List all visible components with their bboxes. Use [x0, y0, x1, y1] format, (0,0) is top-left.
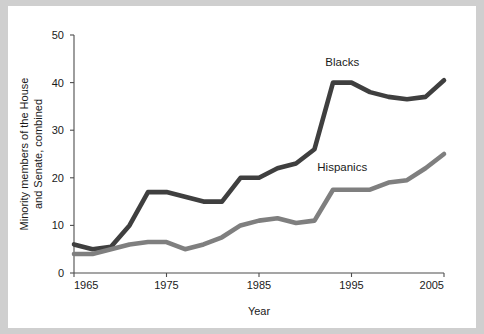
line-chart: 50 40 30 20 10 0 1965 1975 1985 1995 200… [8, 6, 476, 328]
y-tick-label-10: 10 [52, 219, 64, 231]
x-tick-label-1965: 1965 [74, 279, 98, 291]
y-tick-label-20: 20 [52, 172, 64, 184]
x-tick-label-1985: 1985 [247, 279, 271, 291]
y-tick-label-30: 30 [52, 124, 64, 136]
x-tick-label-1975: 1975 [154, 279, 178, 291]
y-axis-tick-labels: 50 40 30 20 10 0 [52, 29, 64, 279]
series-line-hispanics [74, 154, 444, 254]
y-tick-label-40: 40 [52, 77, 64, 89]
plot-axes [70, 35, 444, 277]
y-axis-title-line2: and Senate, combined [32, 99, 44, 209]
x-tick-label-1995: 1995 [339, 279, 363, 291]
chart-figure: 50 40 30 20 10 0 1965 1975 1985 1995 200… [8, 6, 476, 328]
series-label-blacks: Blacks [325, 56, 359, 68]
y-tick-label-0: 0 [58, 267, 64, 279]
y-tick-label-50: 50 [52, 29, 64, 41]
x-tick-label-2005: 2005 [420, 279, 444, 291]
x-axis-title: Year [248, 305, 271, 317]
series-line-blacks [74, 80, 444, 249]
x-axis-tick-labels: 1965 1975 1985 1995 2005 [74, 279, 444, 291]
series-label-hispanics: Hispanics [317, 161, 367, 173]
y-axis-title-line1: Minority members of the House [18, 78, 30, 231]
